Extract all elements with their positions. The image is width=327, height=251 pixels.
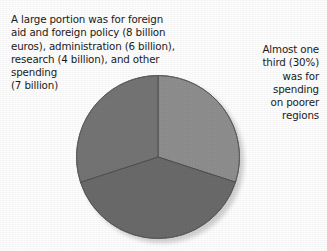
caption-left-text: A large portion was for foreign aid and … bbox=[11, 13, 216, 93]
caption-right-text: Almost one third (30%) was for spending … bbox=[223, 43, 319, 123]
pie-chart bbox=[76, 75, 240, 239]
pie-chart-figure: A large portion was for foreign aid and … bbox=[0, 0, 327, 251]
pie-slices bbox=[76, 75, 240, 239]
